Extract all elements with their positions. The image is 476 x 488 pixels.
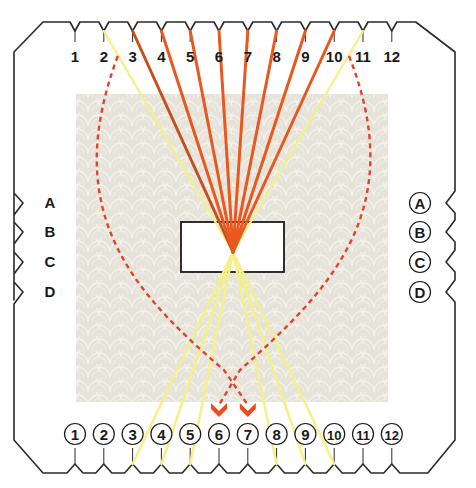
bottom-slot-label: 7	[244, 426, 252, 443]
top-slot-label: 11	[355, 48, 371, 65]
top-slot-label: 8	[272, 48, 280, 65]
top-slot-label: 6	[215, 48, 223, 65]
left-slot-labels: ABCD	[45, 194, 56, 300]
move-arrows	[211, 403, 256, 417]
bottom-slot-label: 1	[71, 426, 79, 443]
bottom-slot-label: 9	[301, 426, 309, 443]
right-slot-labels: ABCD	[410, 193, 431, 303]
bottom-slot-label: 6	[215, 426, 223, 443]
top-slot-label: 10	[326, 48, 343, 65]
left-slot-label: A	[45, 194, 56, 211]
top-slot-label: 5	[186, 48, 194, 65]
top-slot-label: 4	[157, 48, 166, 65]
bottom-slot-label: 5	[186, 426, 194, 443]
bottom-slot-labels: 123456789101112	[65, 424, 403, 445]
top-slot-label: 12	[383, 48, 400, 65]
right-slot-label: B	[415, 224, 426, 241]
right-slot-label: D	[415, 284, 426, 301]
right-slot-label: C	[415, 254, 426, 271]
bottom-slot-label: 2	[100, 426, 108, 443]
bottom-slot-label: 4	[157, 426, 166, 443]
top-slot-label: 9	[301, 48, 309, 65]
top-slot-label: 7	[244, 48, 252, 65]
bottom-slot-label: 8	[272, 426, 280, 443]
left-slot-label: C	[45, 253, 56, 270]
braiding-card-diagram: 123456789101112 123456789101112 ABCD ABC…	[0, 0, 476, 488]
arrow-down-icon	[211, 403, 227, 417]
top-slot-label: 3	[128, 48, 136, 65]
top-slot-label: 1	[71, 48, 79, 65]
top-slot-label: 2	[100, 48, 108, 65]
right-slot-label: A	[415, 195, 426, 212]
bottom-slot-label: 10	[327, 428, 341, 443]
bottom-slot-label: 12	[385, 428, 399, 443]
bottom-slot-label: 3	[128, 426, 136, 443]
arrow-down-icon	[240, 403, 256, 417]
left-slot-label: D	[45, 283, 56, 300]
bottom-slot-label: 11	[356, 428, 370, 443]
left-slot-label: B	[45, 223, 56, 240]
